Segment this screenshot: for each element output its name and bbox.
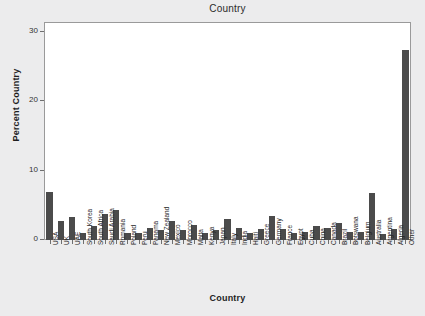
y-tick-label: 30	[29, 26, 38, 35]
x-tick-mark	[205, 240, 206, 244]
x-tick-label: Egypt	[297, 228, 304, 245]
chart-figure: Country Percent Country 0102030 USAUKUAE…	[0, 0, 425, 316]
x-tick-mark	[127, 240, 128, 244]
x-axis-title: Country	[44, 293, 411, 303]
x-tick-mark	[328, 240, 329, 244]
x-tick-label: France	[286, 225, 293, 245]
x-tick-mark	[94, 240, 95, 244]
x-tick-label: New Zealand	[163, 207, 170, 245]
x-tick-mark	[294, 240, 295, 244]
x-tick-label: Other	[408, 229, 415, 245]
x-tick-mark	[316, 240, 317, 244]
x-tick-label: Peru	[141, 231, 148, 245]
x-tick-label: Germany	[275, 218, 282, 245]
x-tick-label: Haiti	[252, 232, 259, 245]
x-tick-label: Poland	[130, 225, 137, 245]
x-tick-label: Morocco	[186, 220, 193, 245]
x-tick-label: Canada	[330, 222, 337, 245]
x-tick-mark	[361, 240, 362, 244]
x-tick-label: Algeria	[397, 225, 404, 245]
x-tick-mark	[239, 240, 240, 244]
y-tick-label: 0	[34, 234, 38, 243]
x-tick-mark	[350, 240, 351, 244]
x-tick-label: India	[241, 231, 248, 245]
x-tick-mark	[61, 240, 62, 244]
x-tick-label: Panama	[152, 221, 159, 245]
bar	[402, 50, 408, 240]
x-tick-mark	[105, 240, 106, 244]
x-tick-label: Greece	[263, 224, 270, 245]
y-tick-label: 20	[29, 95, 38, 104]
x-tick-mark	[383, 240, 384, 244]
x-tick-mark	[305, 240, 306, 244]
bars-series	[44, 22, 411, 240]
x-tick-mark	[405, 240, 406, 244]
x-tick-label: Australia	[375, 220, 382, 245]
x-tick-mark	[272, 240, 273, 244]
x-tick-label: China	[319, 228, 326, 245]
x-tick-label: USA	[52, 232, 59, 245]
x-tick-mark	[194, 240, 195, 244]
x-tick-mark	[228, 240, 229, 244]
x-tick-label: South Africa	[97, 210, 104, 245]
x-tick-mark	[50, 240, 51, 244]
x-tick-mark	[394, 240, 395, 244]
x-tick-label: Japan	[219, 227, 226, 245]
x-tick-label: UAE	[74, 232, 81, 245]
chart-title: Country	[44, 3, 411, 14]
x-tick-label: Mexico	[174, 224, 181, 245]
y-tick-label: 10	[29, 165, 38, 174]
x-tick-mark	[150, 240, 151, 244]
x-tick-mark	[372, 240, 373, 244]
x-tick-mark	[172, 240, 173, 244]
x-tick-label: Botswana	[352, 216, 359, 245]
y-axis-title: Percent Country	[11, 45, 21, 165]
x-tick-mark	[216, 240, 217, 244]
x-tick-mark	[261, 240, 262, 244]
x-tick-label: Cuba	[308, 229, 315, 245]
x-tick-mark	[139, 240, 140, 244]
x-tick-label: Malta	[197, 229, 204, 245]
x-tick-label: Italy	[230, 233, 237, 245]
x-tick-mark	[161, 240, 162, 244]
x-tick-mark	[72, 240, 73, 244]
x-tick-mark	[83, 240, 84, 244]
x-tick-label: South Korea	[86, 209, 93, 245]
x-tick-label: Brazil	[341, 229, 348, 245]
x-tick-label: Kenya	[208, 227, 215, 245]
x-tick-mark	[283, 240, 284, 244]
x-tick-mark	[339, 240, 340, 244]
x-axis-tick-labels: USAUKUAESouth KoreaSouth AfricaSaudi Ara…	[44, 245, 411, 293]
x-tick-mark	[116, 240, 117, 244]
x-tick-mark	[183, 240, 184, 244]
x-tick-mark	[250, 240, 251, 244]
x-tick-label: Saudi Arabia	[108, 208, 115, 245]
x-tick-label: UK	[63, 236, 70, 245]
x-tick-label: Belgium	[364, 222, 371, 245]
x-tick-label: Romania	[119, 219, 126, 245]
x-tick-label: Argentina	[386, 217, 393, 245]
